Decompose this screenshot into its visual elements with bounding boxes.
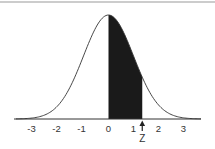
x-tick-label: 2 <box>156 123 161 134</box>
up-arrow-icon <box>139 121 145 127</box>
x-tick-label: 3 <box>181 123 186 134</box>
z-marker: Z <box>139 121 145 145</box>
x-tick-label: 0 <box>106 123 111 134</box>
x-tick-label: -3 <box>27 123 35 134</box>
shaded-area-0-to-z <box>109 15 143 119</box>
x-tick-label: 1 <box>131 123 136 134</box>
z-label: Z <box>139 133 145 144</box>
normal-distribution-chart: -3-2-10123 Z <box>0 0 215 149</box>
x-tick-label: -1 <box>77 123 85 134</box>
x-tick-label: -2 <box>52 123 60 134</box>
x-tick-labels: -3-2-10123 <box>27 123 186 134</box>
